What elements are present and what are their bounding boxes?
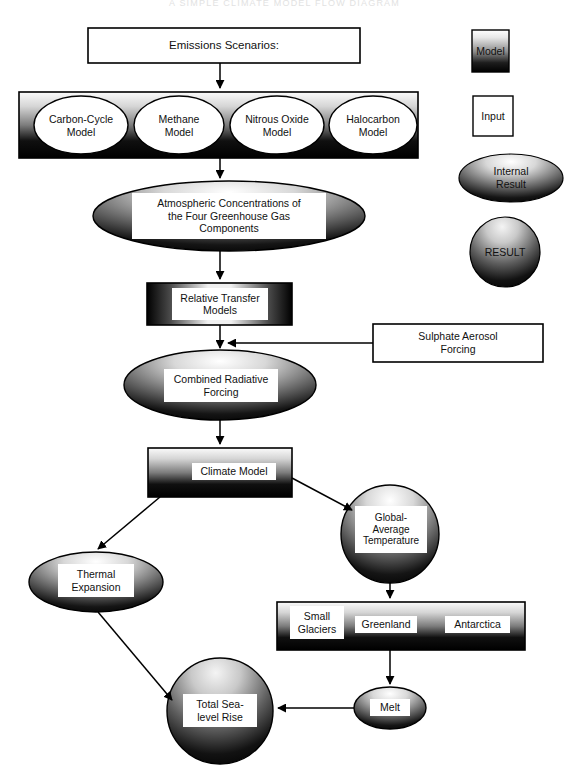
node-sulphate-aerosol-forcing-label: Sulphate Aerosol Forcing — [373, 324, 543, 362]
node-relative-transfer-models-label: Relative Transfer Models — [172, 288, 268, 320]
node-melt-label: Melt — [370, 699, 410, 716]
edge-climate-model-to-global-temperature — [292, 478, 352, 510]
scan-header-text: A SIMPLE CLIMATE MODEL FLOW DIAGRAM — [0, 0, 569, 11]
edge-climate-model-to-thermal-expansion — [98, 497, 160, 549]
legend-model-label: Model — [472, 30, 509, 72]
node-greenland-label: Greenland — [355, 616, 417, 633]
node-methane-model-label: Methane Model — [136, 109, 222, 142]
diagram-canvas: A SIMPLE CLIMATE MODEL FLOW DIAGRAM — [0, 0, 569, 770]
node-total-sea-level-rise-label: Total Sea- level Rise — [183, 694, 257, 727]
legend-internal-result-label: Internal Result — [477, 158, 545, 198]
legend-input-label: Input — [473, 96, 513, 136]
node-thermal-expansion-label: Thermal Expansion — [58, 564, 134, 597]
node-halocarbon-model-label: Halocarbon Model — [329, 109, 417, 142]
node-atmospheric-concentrations-label: Atmospheric Concentrations of the Four G… — [132, 193, 326, 239]
node-antarctica-label: Antarctica — [445, 616, 510, 633]
node-combined-radiative-forcing-label: Combined Radiative Forcing — [164, 369, 278, 402]
node-global-average-temperature-label: Global- Average Temperature — [355, 506, 427, 553]
edge-thermal-expansion-to-sea-level-rise — [98, 612, 172, 700]
legend-result-label: RESULT — [472, 243, 538, 261]
node-carbon-cycle-model-label: Carbon-Cycle Model — [36, 109, 126, 142]
node-small-glaciers-label: Small Glaciers — [290, 606, 344, 639]
node-emissions-scenarios-label: Emissions Scenarios: — [88, 28, 360, 63]
node-nitrous-oxide-model-label: Nitrous Oxide Model — [231, 109, 323, 142]
node-climate-model-label: Climate Model — [192, 463, 276, 480]
